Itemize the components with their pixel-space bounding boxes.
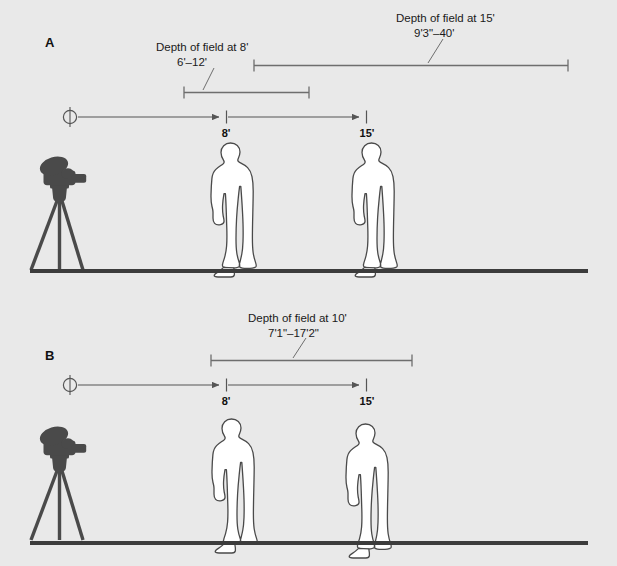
dof-title-10ft: Depth of field at 10' <box>248 312 347 324</box>
leader-line-15ft <box>428 39 443 63</box>
tick-label-15ft-b: 15' <box>360 395 375 407</box>
tick-label-8ft-b: 8' <box>222 395 231 407</box>
leader-line-8ft <box>203 68 214 90</box>
subject-figure-8ft-b <box>212 419 257 553</box>
subject-figure-8ft-a <box>211 143 256 277</box>
panel-b: B Depth of field at 10' 7'1"–17'2" 8' 15… <box>30 312 588 558</box>
dof-range-8ft: 6'–12' <box>177 56 207 68</box>
panel-a: A Depth of field at 15' 9'3"–40' Depth o… <box>30 12 588 277</box>
camera-tripod-b <box>31 423 86 540</box>
subject-figure-15ft-b <box>346 424 391 558</box>
panel-b-letter: B <box>45 348 54 363</box>
dof-bar-8ft <box>184 87 309 99</box>
panel-a-letter: A <box>45 35 55 50</box>
dof-range-15ft: 9'3"–40' <box>414 27 454 39</box>
leader-line-10ft <box>293 338 306 358</box>
dof-bar-10ft <box>211 355 412 367</box>
distance-axis-b: 8' 15' <box>63 375 374 407</box>
tick-label-8ft-a: 8' <box>222 127 231 139</box>
depth-of-field-diagram: A Depth of field at 15' 9'3"–40' Depth o… <box>0 0 617 566</box>
distance-axis-a: 8' 15' <box>63 107 374 139</box>
diagram-canvas: A Depth of field at 15' 9'3"–40' Depth o… <box>0 0 617 566</box>
camera-tripod-a <box>31 153 86 270</box>
tick-label-15ft-a: 15' <box>360 127 375 139</box>
dof-bar-15ft <box>254 60 568 72</box>
dof-title-15ft: Depth of field at 15' <box>396 12 495 24</box>
subject-figure-15ft-a <box>352 143 397 277</box>
dof-range-10ft: 7'1"–17'2" <box>268 327 319 339</box>
dof-title-8ft: Depth of field at 8' <box>156 41 248 53</box>
